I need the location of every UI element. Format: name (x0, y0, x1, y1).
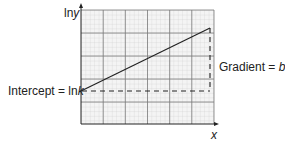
x-axis-arrow-icon (214, 122, 219, 126)
intercept-label: Intercept = lnk (8, 85, 84, 97)
graph-figure: lny x Intercept = lnk Gradient = b (0, 0, 285, 147)
gradient-label: Gradient = b (219, 61, 285, 73)
y-axis-arrow-icon (79, 3, 83, 8)
x-axis-label: x (211, 129, 217, 141)
y-axis-label: lny (64, 7, 79, 19)
